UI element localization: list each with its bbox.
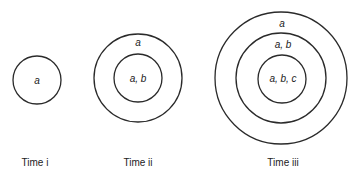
group-time-i: a Time i (13, 56, 61, 168)
ring-label-middle: a, b (275, 39, 292, 50)
ring-label-outer: a (279, 18, 285, 29)
ring-label-outer: a (135, 37, 141, 48)
group-time-iii: a a, b a, b, c Time iii (215, 12, 347, 168)
ring-label-inner: a, b (130, 73, 147, 84)
time-caption: Time ii (123, 157, 152, 168)
time-caption: Time i (22, 157, 49, 168)
nested-circles-diagram: a Time i a a, b Time ii a a, b a, b, c T… (0, 0, 360, 173)
ring-label-inner: a, b, c (269, 73, 296, 84)
group-time-ii: a a, b Time ii (94, 34, 182, 168)
time-caption: Time iii (267, 157, 298, 168)
ring-label: a (34, 75, 40, 86)
